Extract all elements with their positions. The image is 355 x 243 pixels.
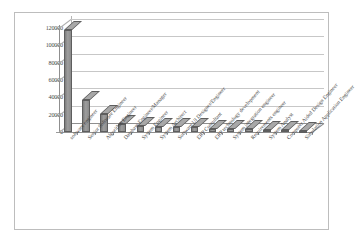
gridline (71, 19, 324, 20)
gridline (71, 88, 324, 89)
gridline (71, 36, 324, 37)
gridline (71, 71, 324, 72)
bar-chart-plot-area: 020000400006000080000100000120000 softwa… (15, 13, 328, 229)
chart-frame: 020000400006000080000100000120000 softwa… (14, 12, 329, 230)
bar[interactable] (64, 30, 72, 132)
gridline (71, 54, 324, 55)
bar-top-face (82, 91, 100, 100)
